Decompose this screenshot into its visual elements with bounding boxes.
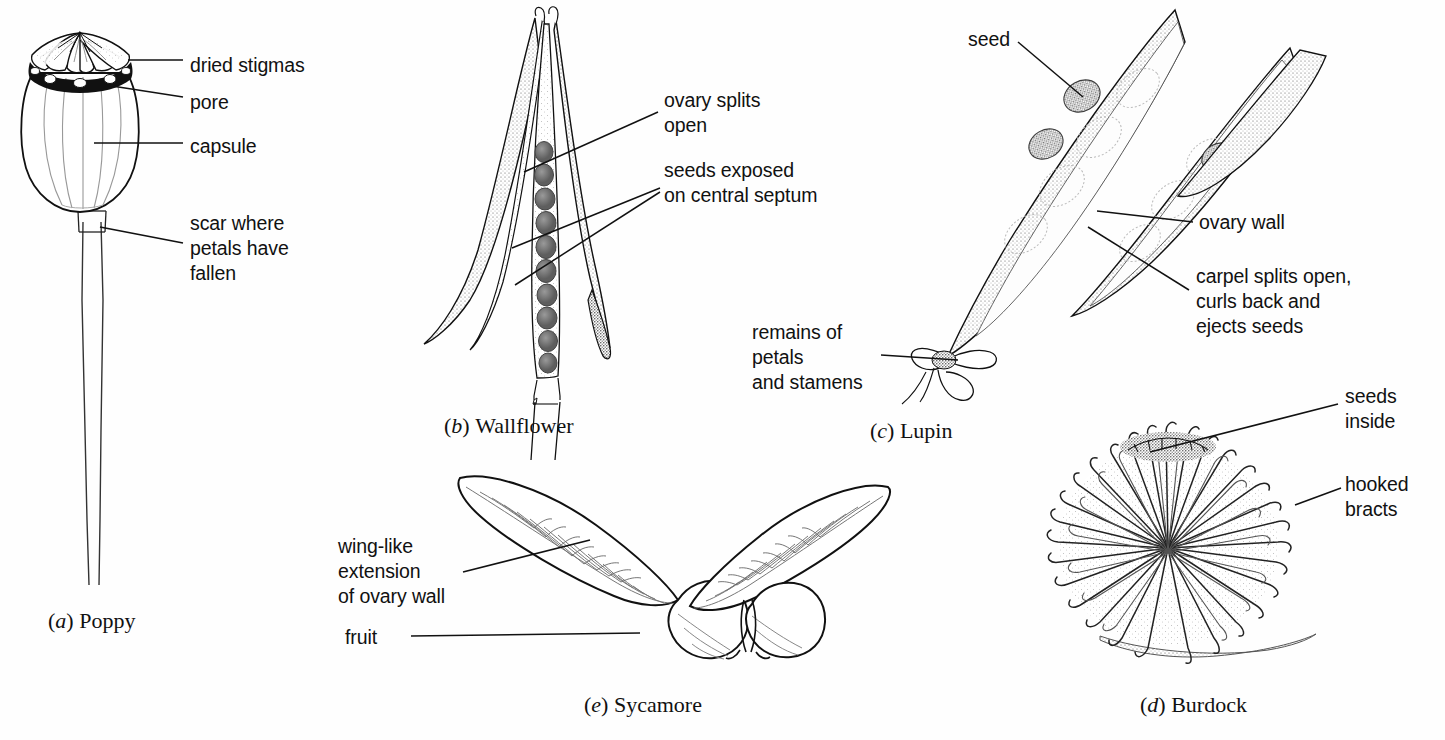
label-wing-like-line1: wing-like [338,534,413,559]
caption-poppy-name: Poppy [79,608,135,633]
leader-seeds-inside [1150,404,1338,452]
label-carpel-splits-line2: curls back and [1196,289,1320,314]
poppy-drawing [21,33,138,585]
label-dried-stigmas: dried stigmas [190,53,305,78]
label-hooked-bracts-line1: hooked [1345,472,1408,497]
leader-hooked-bracts [1295,488,1341,505]
caption-poppy: (a) Poppy [48,608,135,634]
caption-burdock: (d) Burdock [1140,692,1247,718]
label-seeds-exposed-line1: seeds exposed [664,158,794,183]
caption-lupin: (c) Lupin [870,418,952,444]
poppy-dried-stigmas [32,33,130,73]
label-seeds-inside-line2: inside [1345,409,1395,434]
label-ovary-splits-line1: ovary splits [664,88,760,113]
label-ovary-wall: ovary wall [1199,210,1285,235]
figure-canvas: dried stigmas pore capsule scar where pe… [0,0,1445,740]
caption-sycamore-name: Sycamore [614,692,702,717]
label-remains-line2: petals [752,345,803,370]
label-seeds-inside-line1: seeds [1345,384,1397,409]
label-carpel-splits-line3: ejects seeds [1196,314,1303,339]
caption-wallflower: (b) Wallflower [444,413,574,439]
label-hooked-bracts-line2: bracts [1345,497,1398,522]
leader-seed [1018,42,1083,97]
label-remains-line3: and stamens [752,370,863,395]
leader-fruit [411,633,640,636]
caption-sycamore: (e) Sycamore [584,692,702,718]
caption-lupin-name: Lupin [900,418,953,443]
label-wing-like-line3: of ovary wall [338,584,445,609]
sycamore-drawing [458,476,890,659]
label-remains-line1: remains of [752,320,842,345]
caption-wallflower-letter: b [451,413,462,438]
wallflower-drawing [424,7,611,460]
label-seed: seed [968,27,1010,52]
label-pore: pore [190,90,229,115]
label-carpel-splits-line1: carpel splits open, [1196,264,1351,289]
lupin-drawing [902,10,1326,404]
label-fruit: fruit [345,625,377,650]
caption-lupin-letter: c [877,418,887,443]
caption-burdock-name: Burdock [1171,692,1247,717]
caption-wallflower-name: Wallflower [475,413,573,438]
label-wing-like-line2: extension [338,559,421,584]
caption-poppy-letter: a [55,608,66,633]
label-capsule: capsule [190,134,257,159]
label-seeds-exposed-line2: on central septum [664,183,817,208]
label-scar-line1: scar where [190,211,284,236]
label-scar-line3: fallen [190,261,236,286]
caption-sycamore-letter: e [591,692,601,717]
label-ovary-splits-line2: open [664,113,707,138]
poppy-stem [82,222,103,585]
leader-scar [100,227,183,243]
label-scar-line2: petals have [190,236,289,261]
caption-burdock-letter: d [1147,692,1158,717]
